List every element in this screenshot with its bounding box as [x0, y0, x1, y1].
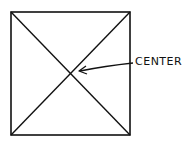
square-diagram: [0, 0, 184, 143]
arrow-icon: [79, 63, 133, 74]
center-label: CENTER: [135, 55, 182, 68]
